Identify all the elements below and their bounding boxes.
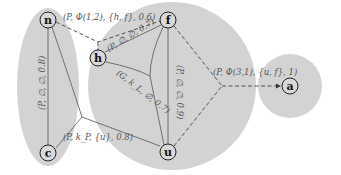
edge-label-n-c: (P, ∅, ∅, 0.8)	[37, 56, 47, 110]
edge-label-c-u: (P, k_P, {u}, 0.8)	[63, 132, 133, 143]
node-a: a	[282, 78, 298, 94]
svg-text:a: a	[286, 80, 293, 93]
svg-text:n: n	[44, 14, 52, 27]
node-f: f	[160, 12, 176, 28]
node-h: h	[90, 50, 106, 66]
svg-text:c: c	[45, 147, 52, 160]
svg-text:u: u	[164, 146, 172, 159]
node-n: n	[40, 12, 56, 28]
edge-label-f-u: (P, ∅, ∅, 0.9)	[175, 65, 185, 119]
node-u: u	[160, 144, 176, 160]
svg-text:h: h	[94, 52, 102, 65]
node-c: c	[40, 145, 56, 161]
edge-label-n-f: (P, Φ(1,2), {h, f}, 0.6)	[63, 12, 155, 22]
graph-diagram: (P, ∅, ∅, 0.8) (P, Φ(1,2), {h, f}, 0.6) …	[0, 0, 341, 175]
edge-label-fu-a: (P, Φ(3,1), {u, f}, 1)	[213, 67, 297, 77]
